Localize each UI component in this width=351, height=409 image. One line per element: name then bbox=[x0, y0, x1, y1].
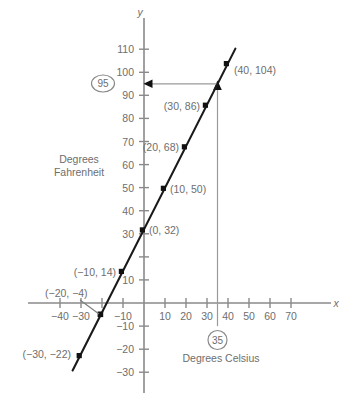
x-tick-label-50: 50 bbox=[243, 310, 255, 322]
data-point-20-68 bbox=[182, 144, 187, 149]
data-point-label-20-68: (20, 68) bbox=[143, 141, 179, 153]
horizontal-guide-arrowhead bbox=[144, 80, 153, 88]
axes-group bbox=[28, 18, 331, 393]
y-tick-label-40: 40 bbox=[122, 205, 134, 217]
y-tick-label-30: 30 bbox=[122, 228, 134, 240]
annotation-35-group: 35 bbox=[208, 331, 227, 350]
y-tick-label-10: 10 bbox=[122, 274, 134, 286]
x-tick-label-30: 30 bbox=[201, 310, 213, 322]
x-tick-label--30: −30 bbox=[72, 310, 90, 322]
celsius-fahrenheit-line bbox=[73, 49, 236, 371]
data-point-label--20--4: (−20, −4) bbox=[45, 287, 88, 299]
y-axis-title-group: Degrees Fahrenheit bbox=[54, 153, 104, 178]
x-tick-label-10: 10 bbox=[159, 310, 171, 322]
annotation-35-value: 35 bbox=[212, 335, 224, 346]
x-tick-labels-group: −40 −30 −10 10 20 30 40 50 60 70 bbox=[51, 310, 297, 322]
x-tick-label-70: 70 bbox=[285, 310, 297, 322]
y-tick-label--20: −20 bbox=[116, 343, 134, 355]
data-point-label-40-104: (40, 104) bbox=[234, 64, 276, 76]
coordinate-plane-svg: −40 −30 −10 10 20 30 40 50 60 70 bbox=[0, 0, 351, 409]
y-tick-label--30: −30 bbox=[116, 366, 134, 378]
data-point-40-104 bbox=[224, 61, 229, 66]
y-tick-label-60: 60 bbox=[122, 159, 134, 171]
y-axis-title-line2: Fahrenheit bbox=[54, 166, 104, 178]
data-point-10-50 bbox=[161, 186, 166, 191]
y-tick-label-110: 110 bbox=[117, 43, 134, 55]
data-point--30--22 bbox=[77, 353, 82, 358]
y-tick-label-50: 50 bbox=[122, 182, 134, 194]
x-tick-label--40: −40 bbox=[51, 310, 69, 322]
y-tick-labels-group: −30 −20 −10 10 30 40 50 60 70 80 90 100 … bbox=[116, 43, 134, 378]
y-tick-label-70: 70 bbox=[122, 136, 134, 148]
x-axis-title: Degrees Celsius bbox=[182, 352, 259, 364]
x-tick-label-20: 20 bbox=[180, 310, 192, 322]
data-point-label-30-86: (30, 86) bbox=[164, 100, 200, 112]
data-point-label--30--22: (−30, −22) bbox=[23, 348, 71, 360]
y-axis-title-line1: Degrees bbox=[59, 153, 99, 165]
x-axis-name-label: x bbox=[332, 297, 339, 309]
data-point--20--4 bbox=[98, 312, 104, 318]
data-point-label-0-32: (0, 32) bbox=[149, 224, 179, 236]
data-point-30-86 bbox=[203, 103, 208, 108]
construction-guides-group bbox=[144, 80, 222, 327]
y-tick-label-90: 90 bbox=[122, 89, 134, 101]
y-tick-label--10: −10 bbox=[116, 320, 134, 332]
annotation-95-value: 95 bbox=[97, 78, 109, 89]
y-axis-name-label: y bbox=[136, 6, 143, 18]
data-point--10-14 bbox=[119, 269, 124, 274]
annotation-95-group: 95 bbox=[92, 75, 115, 92]
y-tick-label-80: 80 bbox=[122, 112, 134, 124]
data-point-label-10-50: (10, 50) bbox=[170, 183, 206, 195]
chart-figure: −40 −30 −10 10 20 30 40 50 60 70 bbox=[0, 0, 351, 409]
y-tick-label-100: 100 bbox=[116, 66, 134, 78]
data-point-label--10-14: (−10, 14) bbox=[74, 266, 116, 278]
x-tick-label-40: 40 bbox=[222, 310, 234, 322]
data-point-0-32 bbox=[140, 227, 145, 232]
x-tick-label-60: 60 bbox=[264, 310, 276, 322]
